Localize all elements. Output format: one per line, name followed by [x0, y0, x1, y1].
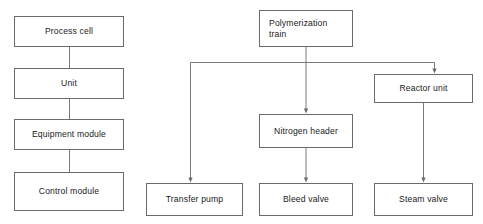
node-reactor-unit-label: Reactor unit — [399, 83, 447, 94]
node-equipment-module-label: Equipment module — [32, 129, 106, 140]
node-steam-valve[interactable]: Steam valve — [374, 183, 473, 216]
node-equipment-module[interactable]: Equipment module — [14, 119, 124, 150]
node-control-module[interactable]: Control module — [14, 172, 124, 211]
node-transfer-pump-label: Transfer pump — [166, 194, 224, 205]
node-polymerization-train-label-line2: train — [269, 29, 327, 40]
node-polymerization-train-label-line1: Polymerization — [269, 18, 327, 29]
diagram-canvas: Process cell Unit Equipment module Contr… — [0, 0, 483, 224]
node-unit-label: Unit — [61, 78, 77, 89]
node-nitrogen-header[interactable]: Nitrogen header — [259, 114, 353, 148]
node-bleed-valve[interactable]: Bleed valve — [259, 183, 353, 216]
node-control-module-label: Control module — [39, 186, 99, 197]
node-unit[interactable]: Unit — [14, 68, 124, 99]
node-process-cell-label: Process cell — [45, 26, 93, 37]
node-polymerization-train[interactable]: Polymerization train — [259, 10, 353, 47]
node-steam-valve-label: Steam valve — [399, 194, 448, 205]
node-transfer-pump[interactable]: Transfer pump — [146, 183, 243, 216]
node-bleed-valve-label: Bleed valve — [283, 194, 329, 205]
node-reactor-unit[interactable]: Reactor unit — [374, 74, 473, 103]
node-process-cell[interactable]: Process cell — [14, 16, 124, 47]
node-nitrogen-header-label: Nitrogen header — [274, 126, 338, 137]
top-cut-caption — [276, 0, 476, 3]
